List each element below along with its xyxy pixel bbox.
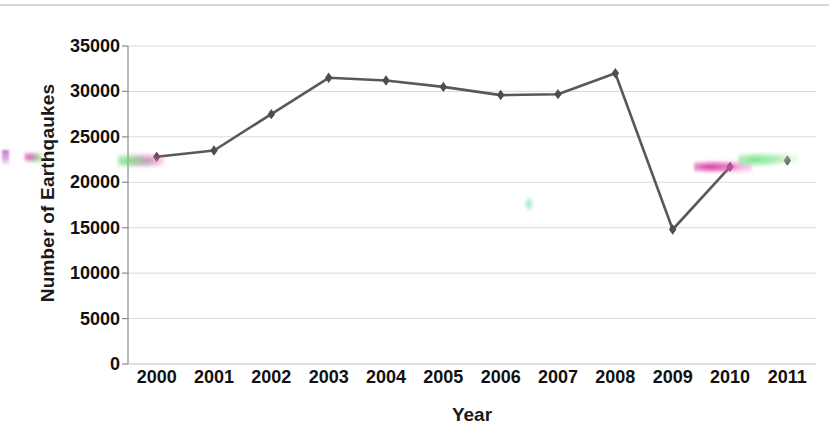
data-point-marker <box>210 145 217 155</box>
plot-svg <box>128 46 816 364</box>
series-line <box>157 73 730 229</box>
x-tick-label: 2011 <box>752 368 822 386</box>
data-point-marker <box>382 75 389 85</box>
x-axis-tick-labels: 2000200120022003200420052006200720082009… <box>128 368 816 396</box>
y-tick-label: 30000 <box>30 82 120 100</box>
y-tick-label: 35000 <box>30 37 120 55</box>
top-divider-rule <box>0 4 829 6</box>
data-point-marker <box>440 82 447 92</box>
plot-area <box>128 46 816 364</box>
y-tick-label: 25000 <box>30 128 120 146</box>
y-axis-tick-labels: 35000300002500020000150001000050000 <box>30 0 120 441</box>
data-point-marker <box>554 89 561 99</box>
data-point-markers <box>153 68 791 235</box>
earthquake-line-chart: Number of Earthqaukes 350003000025000200… <box>0 0 829 441</box>
data-point-marker <box>784 155 791 165</box>
data-point-marker <box>153 152 160 162</box>
x-axis-title: Year <box>128 404 816 426</box>
data-point-marker <box>268 109 275 119</box>
y-tick-label: 20000 <box>30 173 120 191</box>
axis-lines <box>122 46 816 364</box>
gridlines <box>128 46 816 319</box>
data-point-marker <box>325 73 332 83</box>
y-tick-label: 10000 <box>30 264 120 282</box>
y-tick-label: 15000 <box>30 219 120 237</box>
y-tick-label: 0 <box>30 355 120 373</box>
y-tick-label: 5000 <box>30 310 120 328</box>
data-series-line <box>157 73 730 229</box>
left-edge-color-artifact <box>2 150 9 166</box>
